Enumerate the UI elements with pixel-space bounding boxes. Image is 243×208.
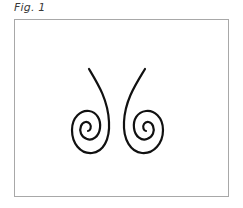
right-spiral-curve — [124, 69, 163, 153]
left-spiral-curve — [72, 69, 109, 153]
figure-illustration — [0, 0, 243, 208]
